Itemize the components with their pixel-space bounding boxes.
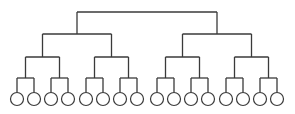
leaf-node — [114, 93, 127, 106]
leaf-node — [185, 93, 198, 106]
leaf-node — [168, 93, 181, 106]
leaf-node — [62, 93, 75, 106]
leaf-node — [202, 93, 215, 106]
tree-edges — [17, 12, 277, 93]
leaf-node — [11, 93, 24, 106]
leaf-node — [97, 93, 110, 106]
tree-diagram — [0, 0, 295, 114]
leaf-node — [271, 93, 284, 106]
leaf-node — [45, 93, 58, 106]
leaf-node — [151, 93, 164, 106]
leaf-node — [131, 93, 144, 106]
leaf-node — [237, 93, 250, 106]
leaf-node — [254, 93, 267, 106]
leaf-node — [28, 93, 41, 106]
leaf-node — [220, 93, 233, 106]
tree-leaves — [11, 93, 284, 106]
leaf-node — [80, 93, 93, 106]
